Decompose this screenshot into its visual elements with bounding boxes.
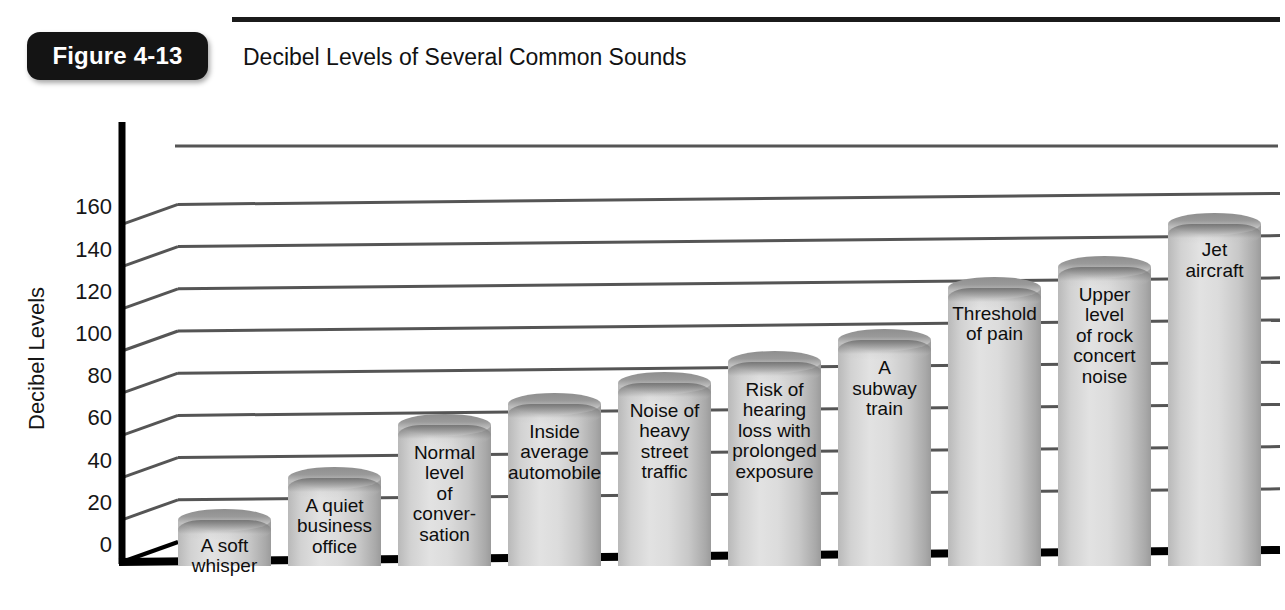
y-tick-20: 20 — [40, 490, 112, 516]
gridline-slant-20 — [122, 500, 178, 520]
bar-label: A soft whisper — [178, 536, 271, 577]
bar-label: A quiet business office — [288, 496, 381, 558]
y-tick-60: 60 — [40, 405, 112, 431]
figure-number-badge: Figure 4-13 — [27, 32, 208, 80]
y-tick-160: 160 — [40, 194, 112, 220]
bar-label: Jet aircraft — [1168, 240, 1261, 281]
gridline-slant-80 — [122, 373, 178, 393]
figure-title: Decibel Levels of Several Common Sounds — [243, 44, 687, 71]
gridline-slant-100 — [122, 331, 178, 351]
bar-column: A quiet business office — [288, 478, 381, 566]
y-tick-80: 80 — [40, 363, 112, 389]
bar-label: Noise of heavy street traffic — [618, 401, 711, 483]
gridline-slant-120 — [122, 289, 178, 309]
bar-label: Risk of hearing loss with prolonged expo… — [728, 380, 821, 483]
bar-label: Normal level of conver- sation — [398, 443, 491, 546]
y-tick-0: 0 — [40, 532, 112, 558]
figure-number-label: Figure 4-13 — [52, 42, 182, 70]
bar-column: A subway train — [838, 340, 931, 566]
bar-column: Risk of hearing loss with prolonged expo… — [728, 362, 821, 566]
gridline-slant-60 — [122, 415, 178, 435]
bar-label: Inside average automobile — [508, 422, 601, 484]
gridline-back-160 — [178, 193, 1280, 204]
bar-label: Threshold of pain — [948, 304, 1041, 345]
y-tick-140: 140 — [40, 237, 112, 263]
y-tick-40: 40 — [40, 448, 112, 474]
bar-chart: Decibel Levels 160140120100806040200 A s… — [0, 110, 1285, 610]
y-tick-100: 100 — [40, 321, 112, 347]
gridline-back-140 — [178, 236, 1280, 247]
bar-label: Upper level of rock concert noise — [1058, 285, 1151, 388]
bar-column: Normal level of conver- sation — [398, 425, 491, 566]
gridline-slant-40 — [122, 458, 178, 478]
bar-label: A subway train — [838, 358, 931, 420]
header-rule — [232, 17, 1280, 22]
gridline-slant-140 — [122, 247, 178, 267]
figure-container: Figure 4-13 Decibel Levels of Several Co… — [0, 0, 1285, 610]
bar-column: Inside average automobile — [508, 404, 601, 566]
bar-column: Noise of heavy street traffic — [618, 383, 711, 566]
bar-column: Upper level of rock concert noise — [1058, 267, 1151, 566]
bar-column: Threshold of pain — [948, 288, 1041, 566]
bar-column: Jet aircraft — [1168, 224, 1261, 566]
y-tick-120: 120 — [40, 279, 112, 305]
bar-column: A soft whisper — [178, 520, 271, 566]
gridline-slant-160 — [122, 204, 178, 224]
